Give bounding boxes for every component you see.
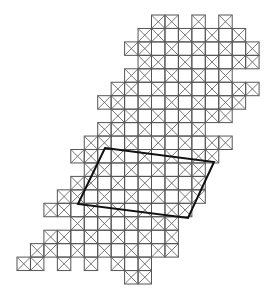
cross-mark: [152, 136, 165, 149]
cross-mark: [205, 136, 218, 149]
grid-cell: [232, 42, 245, 55]
cross-mark: [125, 163, 138, 176]
cross-mark: [125, 217, 138, 230]
cross-mark: [138, 96, 151, 109]
grid-cell: [219, 82, 232, 95]
grid-cell: [165, 109, 178, 122]
cross-mark: [111, 96, 124, 109]
cross-mark: [138, 123, 151, 136]
cross-mark: [152, 190, 165, 203]
cross-mark: [125, 190, 138, 203]
cross-mark: [125, 69, 138, 82]
cross-mark: [178, 136, 191, 149]
grid-cell: [165, 82, 178, 95]
cross-mark: [192, 42, 205, 55]
cross-mark: [178, 109, 191, 122]
cross-mark: [57, 230, 70, 243]
grid-cell: [205, 96, 218, 109]
cross-mark: [192, 69, 205, 82]
cross-mark: [205, 28, 218, 41]
cross-mark: [219, 109, 232, 122]
cross-mark: [111, 150, 124, 163]
cross-mark: [165, 230, 178, 243]
grid-cell: [125, 96, 138, 109]
grid-cell: [138, 244, 151, 257]
grid-cell: [125, 123, 138, 136]
grid-cell: [178, 176, 191, 189]
grid-cell: [192, 28, 205, 41]
grid-cell: [84, 244, 97, 257]
cross-mark: [111, 123, 124, 136]
grid-cell: [178, 123, 191, 136]
cross-mark: [125, 109, 138, 122]
cross-mark: [30, 244, 43, 257]
cross-mark: [111, 109, 124, 122]
grid-cell: [165, 136, 178, 149]
cross-mark: [44, 203, 57, 216]
cross-mark: [138, 69, 151, 82]
cross-mark: [205, 109, 218, 122]
grid-cell: [84, 190, 97, 203]
cross-mark: [111, 82, 124, 95]
cross-mark: [138, 271, 151, 284]
grid-cell: [178, 96, 191, 109]
grid-cell: [138, 190, 151, 203]
cross-mark: [246, 42, 259, 55]
cross-mark: [138, 203, 151, 216]
grid-cell: [205, 69, 218, 82]
cross-mark: [165, 42, 178, 55]
cross-mark: [138, 28, 151, 41]
grid-cell: [192, 109, 205, 122]
grid-cell: [98, 203, 111, 216]
grid-cell: [84, 217, 97, 230]
cross-mark: [125, 42, 138, 55]
cross-mark: [125, 136, 138, 149]
grid-cell: [111, 244, 124, 257]
grid-cell: [138, 136, 151, 149]
cross-mark: [152, 28, 165, 41]
cross-mark: [138, 230, 151, 243]
cross-mark: [192, 15, 205, 28]
grid-cell: [152, 42, 165, 55]
cross-mark: [71, 176, 84, 189]
cross-mark: [219, 136, 232, 149]
grid-cell: [111, 217, 124, 230]
grid-cell: [71, 230, 84, 243]
cross-mark: [98, 123, 111, 136]
cross-mark: [165, 217, 178, 230]
grid-cell: [165, 28, 178, 41]
cross-mark: [152, 109, 165, 122]
cross-mark: [152, 217, 165, 230]
cross-mark: [71, 244, 84, 257]
cross-mark: [192, 96, 205, 109]
cross-mark: [125, 244, 138, 257]
cross-mark: [111, 257, 124, 270]
cross-mark: [125, 271, 138, 284]
cross-mark: [232, 82, 245, 95]
cross-mark: [178, 163, 191, 176]
cross-mark: [152, 244, 165, 257]
cross-mark: [165, 176, 178, 189]
cross-mark: [84, 257, 97, 270]
cross-mark: [152, 15, 165, 28]
cross-mark: [84, 163, 97, 176]
cross-mark: [219, 15, 232, 28]
cross-mark: [71, 150, 84, 163]
lattice-canvas: [0, 0, 275, 306]
cross-mark: [246, 55, 259, 68]
cross-mark: [98, 96, 111, 109]
grid-cell: [125, 230, 138, 243]
cross-mark: [84, 230, 97, 243]
cross-mark: [165, 15, 178, 28]
grid-cell: [138, 109, 151, 122]
grid-cell: [165, 190, 178, 203]
cross-mark: [165, 69, 178, 82]
grid-cell: [138, 217, 151, 230]
cross-mark: [111, 230, 124, 243]
cross-mark: [138, 176, 151, 189]
cross-mark: [219, 42, 232, 55]
cross-mark: [138, 55, 151, 68]
cross-mark: [219, 96, 232, 109]
grid-cell: [152, 230, 165, 243]
cross-mark: [165, 244, 178, 257]
